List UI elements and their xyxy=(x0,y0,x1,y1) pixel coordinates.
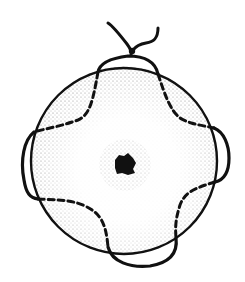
cell-diagram xyxy=(0,0,245,282)
top-knot xyxy=(108,23,158,55)
